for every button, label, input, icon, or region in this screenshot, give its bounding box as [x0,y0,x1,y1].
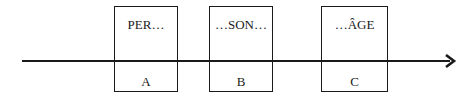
box-letter: B [210,74,272,90]
syllable-box-a: PER… A [114,6,178,92]
syllable-label: …ÂGE [322,17,387,33]
syllable-box-c: …ÂGE C [321,6,388,92]
box-letter: C [322,74,387,90]
syllable-label: …SON… [210,17,272,33]
box-letter: A [115,74,177,90]
syllable-box-b: …SON… B [209,6,273,92]
arrow-head-icon [443,54,457,68]
syllable-label: PER… [115,17,177,33]
